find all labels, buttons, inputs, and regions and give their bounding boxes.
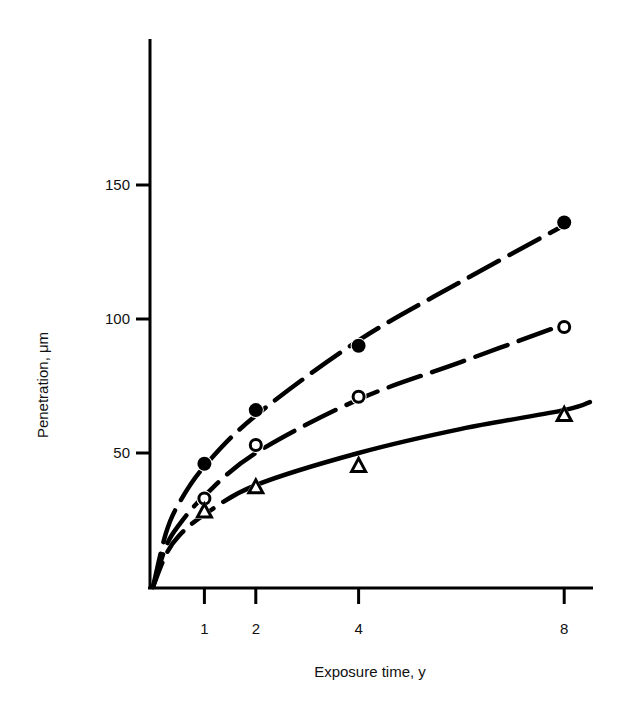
open-triangle-marker: [352, 458, 366, 471]
x-tick-label: 4: [354, 620, 362, 637]
open-circle-marker: [559, 322, 570, 333]
fit-curve-1: [153, 225, 564, 587]
open-circle-marker: [353, 391, 364, 402]
fit-curves: [153, 225, 590, 587]
y-ticks: 50100150: [105, 176, 150, 461]
open-triangle-marker: [197, 504, 211, 517]
data-markers: [194, 215, 574, 519]
y-tick-label: 50: [113, 444, 130, 461]
filled-circle-marker: [557, 216, 571, 230]
x-tick-label: 8: [560, 620, 568, 637]
x-tick-label: 2: [252, 620, 260, 637]
y-axis-label: Penetration, μm: [34, 332, 51, 438]
y-tick-label: 100: [105, 310, 130, 327]
filled-circle-marker: [352, 339, 366, 353]
x-tick-label: 1: [200, 620, 208, 637]
penetration-chart: 50100150 1248 Exposure time, y Penetrati…: [0, 0, 622, 705]
filled-circle-marker: [197, 457, 211, 471]
x-axis-label: Exposure time, y: [314, 663, 426, 680]
x-ticks: 1248: [200, 588, 568, 637]
y-tick-label: 150: [105, 176, 130, 193]
open-circle-marker: [250, 439, 261, 450]
fit-curve-3: [153, 402, 590, 587]
filled-circle-marker: [249, 403, 263, 417]
